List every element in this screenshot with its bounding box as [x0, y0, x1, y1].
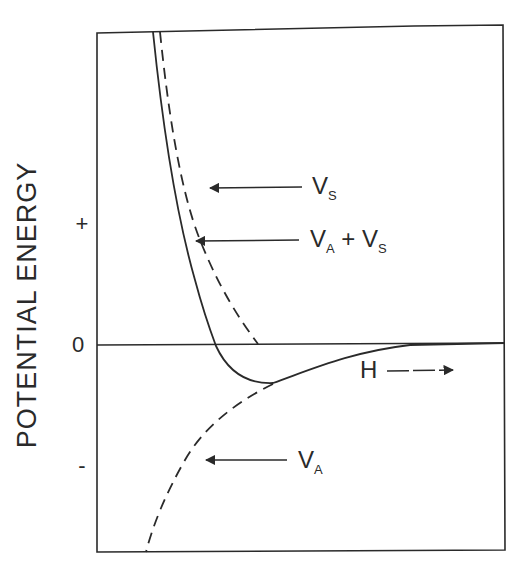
label-total: VA + VS	[310, 225, 387, 256]
arrow-total	[196, 240, 299, 241]
label-h: H	[360, 356, 377, 384]
label-total-plus: + V	[335, 225, 378, 252]
label-va: VA	[298, 446, 323, 477]
tick-plus: +	[76, 211, 89, 237]
label-total-sub: A	[326, 241, 335, 256]
label-va-main: V	[298, 446, 314, 473]
y-axis-label: POTENTIAL ENERGY	[12, 162, 43, 449]
tick-minus: -	[78, 453, 85, 479]
label-total-main: V	[310, 225, 326, 252]
tick-zero: 0	[72, 332, 84, 358]
label-vs-sub: S	[328, 188, 337, 203]
label-total-sub2: S	[378, 241, 387, 256]
label-vs: VS	[312, 172, 337, 203]
label-vs-main: V	[312, 172, 328, 199]
arrow-h	[387, 370, 453, 371]
arrow-vs	[210, 187, 302, 188]
potential-energy-diagram	[0, 0, 531, 579]
curve-va-attraction	[146, 384, 273, 552]
curve-total-va-plus-vs	[153, 32, 505, 383]
label-va-sub: A	[314, 462, 323, 477]
